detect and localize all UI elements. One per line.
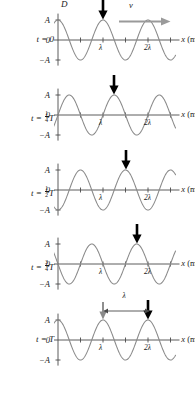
x-axis-unit: (m) — [185, 109, 195, 119]
x-tick-label: λ — [99, 344, 102, 352]
y-axis-label: D — [61, 0, 68, 9]
x-axis-unit: (m) — [185, 34, 195, 44]
x-axis-unit: (m) — [185, 184, 195, 194]
wave-plot-svg — [54, 75, 195, 150]
x-axis-label: x (m) — [181, 259, 195, 268]
x-axis-label: x (m) — [181, 185, 195, 194]
x-tick-label: λ — [99, 268, 102, 276]
y-label-amplitude-negative: −A — [28, 356, 50, 365]
velocity-label: v — [129, 1, 133, 10]
y-label-amplitude-positive: A — [28, 166, 50, 175]
x-axis-label: x (m) — [181, 110, 195, 119]
x-axis-label: x (m) — [181, 35, 195, 44]
y-label-zero: 0 — [28, 336, 50, 345]
crest-marker-arrow-icon — [98, 0, 108, 24]
x-axis-label: x (m) — [181, 335, 195, 344]
y-label-zero: 0 — [28, 36, 50, 45]
x-axis-unit: (m) — [185, 334, 195, 344]
x-tick-label: λ — [99, 44, 102, 52]
x-tick-label: λ — [99, 119, 102, 127]
panel-t0: t = 0A0−Aλ2λx (m)Dv — [0, 0, 195, 75]
wave-propagation-figure: t = 0A0−Aλ2λx (m)Dvt = 14TA0−Aλ2λx (m)t … — [0, 0, 195, 402]
x-tick-label: 2λ — [144, 344, 151, 352]
wavelength-span-label: λ — [123, 292, 126, 300]
wave-plot — [54, 75, 195, 150]
y-label-amplitude-negative: −A — [28, 56, 50, 65]
panel-t-half: t = 12TA0−Aλ2λx (m) — [0, 150, 195, 225]
y-label-amplitude-positive: A — [28, 316, 50, 325]
panel-t-full: t = TA0−Aλ2λx (m)λ — [0, 300, 195, 375]
wavelength-span-indicator — [103, 301, 150, 319]
panel-t-quarter: t = 14TA0−Aλ2λx (m) — [0, 75, 195, 150]
y-label-amplitude-positive: A — [28, 16, 50, 25]
y-label-amplitude-negative: −A — [28, 280, 50, 289]
x-tick-label: 2λ — [144, 268, 151, 276]
y-label-zero: 0 — [28, 186, 50, 195]
x-tick-label: 2λ — [144, 194, 151, 202]
x-axis-unit: (m) — [185, 258, 195, 268]
x-tick-label: 2λ — [144, 119, 151, 127]
x-tick-label: 2λ — [144, 44, 151, 52]
y-label-zero: 0 — [28, 111, 50, 120]
y-label-amplitude-positive: A — [28, 240, 50, 249]
panel-t-three-quarter: t = 34TA0−Aλ2λx (m) — [0, 224, 195, 299]
y-label-amplitude-negative: −A — [28, 206, 50, 215]
crest-marker-arrow-icon — [109, 75, 119, 99]
velocity-arrow-icon — [119, 12, 171, 30]
y-label-amplitude-positive: A — [28, 91, 50, 100]
wave-plot — [54, 224, 195, 299]
wave-plot-svg — [54, 224, 195, 299]
crest-marker-arrow-icon — [132, 224, 142, 248]
y-label-amplitude-negative: −A — [28, 131, 50, 140]
x-tick-label: λ — [99, 194, 102, 202]
y-label-zero: 0 — [28, 260, 50, 269]
crest-marker-arrow-icon — [121, 150, 131, 174]
